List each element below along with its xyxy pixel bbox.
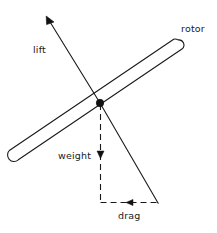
lift-arrowhead	[46, 16, 54, 25]
rotor-force-diagram: lift rotor weight drag	[0, 0, 217, 233]
rotor-label: rotor	[181, 24, 205, 34]
rotor-blade	[8, 39, 184, 161]
drag-label: drag	[118, 211, 141, 221]
weight-component	[97, 104, 104, 203]
drag-component	[101, 199, 159, 205]
force-diagram-canvas	[0, 0, 217, 233]
rotor-hub	[96, 99, 103, 106]
weight-arrowhead	[97, 151, 104, 159]
resultant-vector	[100, 103, 158, 203]
drag-arrowhead	[126, 199, 133, 205]
lift-vector	[46, 16, 100, 103]
weight-label: weight	[58, 151, 91, 161]
lift-label: lift	[33, 45, 46, 55]
